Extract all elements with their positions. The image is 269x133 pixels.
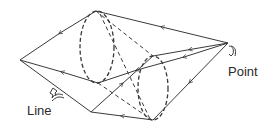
line-curved-arrow-icon — [50, 88, 64, 101]
ray-near-bottom-to-apex — [20, 60, 98, 83]
point-curved-arrow-icon — [229, 46, 236, 56]
ray-point-to-near-top — [96, 11, 228, 43]
point-label: Point — [228, 65, 258, 78]
ray-near-top-to-apex — [20, 11, 96, 60]
line-label: Line — [27, 104, 52, 117]
far-bottom-to-bottom-left — [91, 112, 153, 120]
